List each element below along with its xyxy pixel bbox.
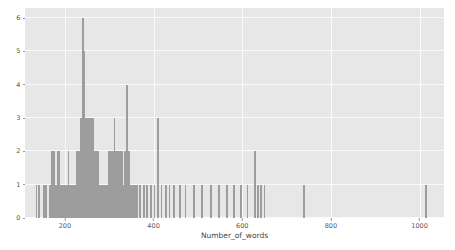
y-axis-tick: 3 <box>16 113 25 123</box>
histogram-bar <box>146 185 148 218</box>
histogram-bar <box>210 185 212 218</box>
histogram-bar <box>185 185 187 218</box>
histogram-bar <box>161 185 163 218</box>
histogram-bar <box>254 151 256 218</box>
x-axis-tick-mark <box>153 218 154 221</box>
histogram-bar <box>226 185 228 218</box>
histogram-bar <box>173 185 175 218</box>
histogram-figure: 0123456 2004006008001000 Number_of_words <box>0 0 455 250</box>
x-axis-tick-label: 600 <box>236 222 248 230</box>
y-axis-tick: 0 <box>16 213 25 223</box>
histogram-bar <box>169 185 171 218</box>
x-axis-tick-label: 400 <box>147 222 159 230</box>
y-axis-tick: 6 <box>16 13 25 23</box>
histogram-bar <box>179 185 181 218</box>
x-axis-tick-mark <box>330 218 331 221</box>
gridline-vertical <box>242 8 243 218</box>
x-axis-title: Number_of_words <box>25 231 444 240</box>
x-axis-tick-label: 1000 <box>411 222 428 230</box>
histogram-bar <box>218 185 220 218</box>
histogram-bar <box>240 185 242 218</box>
y-axis-tick: 4 <box>16 80 25 90</box>
histogram-bar <box>264 185 266 218</box>
y-axis-tick: 1 <box>16 180 25 190</box>
histogram-bar <box>137 185 139 218</box>
histogram-bar <box>143 185 145 218</box>
histogram-bar <box>233 185 235 218</box>
histogram-bar <box>154 185 156 218</box>
histogram-bar <box>139 185 141 218</box>
y-axis-tick: 5 <box>16 46 25 56</box>
x-axis-tick: 800 <box>325 218 337 230</box>
x-axis-tick: 600 <box>236 218 248 230</box>
histogram-bar <box>247 185 249 218</box>
histogram-bar <box>38 185 40 218</box>
histogram-bar <box>201 185 203 218</box>
histogram-bar <box>193 185 195 218</box>
histogram-bar <box>425 185 427 218</box>
x-axis-tick: 400 <box>147 218 159 230</box>
y-axis-tick: 2 <box>16 146 25 156</box>
plot-area <box>25 8 444 218</box>
x-axis-tick: 1000 <box>411 218 428 230</box>
gridline-horizontal <box>25 84 444 85</box>
x-axis-tick-label: 800 <box>325 222 337 230</box>
histogram-bar <box>260 185 262 218</box>
gridline-horizontal <box>25 50 444 51</box>
histogram-bar <box>257 185 259 218</box>
x-axis-tick-mark <box>64 218 65 221</box>
x-axis-tick-mark <box>419 218 420 221</box>
histogram-bar <box>303 185 305 218</box>
histogram-bar <box>157 118 159 218</box>
histogram-bar <box>43 185 45 218</box>
gridline-horizontal <box>25 17 444 18</box>
x-axis-tick: 200 <box>59 218 71 230</box>
histogram-bar <box>45 185 47 218</box>
x-axis-tick-label: 200 <box>59 222 71 230</box>
gridline-vertical <box>331 8 332 218</box>
histogram-bar <box>150 185 152 218</box>
x-axis-tick-mark <box>242 218 243 221</box>
gridline-vertical <box>420 8 421 218</box>
histogram-bar <box>165 185 167 218</box>
y-axis: 0123456 <box>0 8 25 218</box>
